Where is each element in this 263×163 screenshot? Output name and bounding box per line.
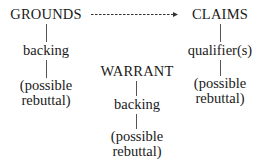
claims-connector-2 [220,60,221,76]
claims-node: CLAIMS [180,7,260,22]
warrant-connector-1 [136,81,137,96]
warrant-node: WARRANT [96,64,178,79]
warrant-rebuttal-line1: (possible [96,129,178,144]
warrant-connector-2 [136,114,137,129]
claims-connector-1 [220,24,221,42]
warrant-backing: backing [96,97,178,112]
claims-rebuttal-line2: rebuttal) [180,91,260,106]
warrant-rebuttal-line2: rebuttal) [96,144,178,159]
claims-rebuttal-line1: (possible [180,76,260,91]
claims-qualifier: qualifier(s) [175,43,263,58]
